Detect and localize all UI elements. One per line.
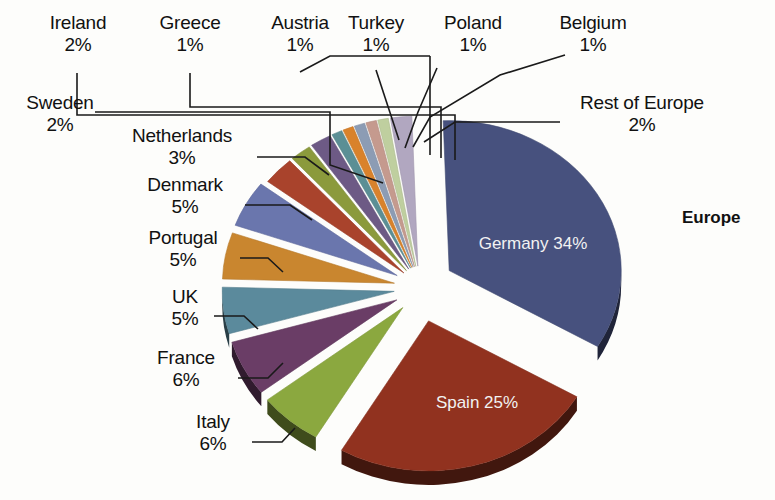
callout-italy-name: Italy (182, 411, 244, 433)
callout-france-pct: 6% (140, 369, 232, 391)
callout-turkey: Turkey 1% (336, 12, 416, 56)
chart-title: Europe (682, 208, 741, 228)
slice-label-spain: Spain 25% (432, 392, 522, 413)
callout-greece-name: Greece (140, 12, 240, 34)
pie-slices-group (222, 116, 621, 485)
callout-ireland-name: Ireland (30, 12, 126, 34)
pie-chart-figure: Ireland 2% Greece 1% Austria 1% Turkey 1… (0, 0, 775, 500)
leader-line-austria-hook (300, 56, 430, 72)
callout-portugal-name: Portugal (130, 227, 236, 249)
callout-poland-pct: 1% (432, 34, 514, 56)
callout-denmark: Denmark 5% (128, 174, 242, 218)
callout-rest-of-europe: Rest of Europe 2% (552, 92, 732, 136)
callout-poland-name: Poland (432, 12, 514, 34)
callout-netherlands-pct: 3% (110, 147, 254, 169)
callout-italy: Italy 6% (182, 411, 244, 455)
slice-label-spain-pct: 25% (484, 393, 518, 412)
callout-denmark-pct: 5% (128, 196, 242, 218)
callout-belgium-name: Belgium (548, 12, 638, 34)
callout-portugal-pct: 5% (130, 249, 236, 271)
callout-france: France 6% (140, 347, 232, 391)
callout-ireland-pct: 2% (30, 34, 126, 56)
callout-ireland: Ireland 2% (30, 12, 126, 56)
callout-italy-pct: 6% (182, 433, 244, 455)
callout-netherlands-name: Netherlands (110, 125, 254, 147)
callout-france-name: France (140, 347, 232, 369)
pie-chart-canvas (0, 0, 775, 500)
callout-netherlands: Netherlands 3% (110, 125, 254, 169)
callout-belgium-pct: 1% (548, 34, 638, 56)
callout-uk: UK 5% (160, 286, 210, 330)
callout-denmark-name: Denmark (128, 174, 242, 196)
callout-sweden-name: Sweden (10, 92, 110, 114)
callout-poland: Poland 1% (432, 12, 514, 56)
callout-rest-of-europe-pct: 2% (552, 114, 732, 136)
callout-turkey-name: Turkey (336, 12, 416, 34)
callout-turkey-pct: 1% (336, 34, 416, 56)
callout-rest-of-europe-name: Rest of Europe (552, 92, 732, 114)
callout-sweden-pct: 2% (10, 114, 110, 136)
callout-portugal: Portugal 5% (130, 227, 236, 271)
callout-belgium: Belgium 1% (548, 12, 638, 56)
callout-greece: Greece 1% (140, 12, 240, 56)
slice-label-germany: Germany 34% (478, 233, 588, 254)
callout-greece-pct: 1% (140, 34, 240, 56)
callout-uk-pct: 5% (160, 308, 210, 330)
callout-uk-name: UK (160, 286, 210, 308)
slice-label-germany-name: Germany (479, 234, 549, 253)
callout-sweden: Sweden 2% (10, 92, 110, 136)
slice-label-germany-pct: 34% (553, 234, 587, 253)
slice-label-spain-name: Spain (436, 393, 479, 412)
